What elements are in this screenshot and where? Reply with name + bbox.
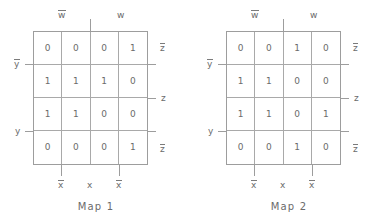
axis-label-right-z-bar-top: z bbox=[160, 43, 165, 53]
axis-label-bottom-x: x bbox=[280, 181, 285, 190]
map-cell: 1 bbox=[62, 65, 90, 98]
map-cell: 0 bbox=[312, 32, 340, 65]
karnaugh-map-figure: w w x x x y y z z z 0 0 0 1 1 1 1 0 1 1 … bbox=[0, 0, 385, 223]
axis-label-right-z-bar-top: z bbox=[353, 43, 358, 53]
map-cell: 0 bbox=[284, 65, 312, 98]
tick-right-z-middle bbox=[340, 98, 349, 99]
map-cell: 0 bbox=[91, 98, 119, 131]
map-cell: 0 bbox=[34, 32, 62, 65]
map-cell: 0 bbox=[62, 32, 90, 65]
tick-bottom-x-right bbox=[119, 165, 120, 176]
map-cell: 1 bbox=[119, 32, 147, 65]
karnaugh-grid: 0 0 1 0 1 1 0 0 1 1 0 1 0 0 1 0 bbox=[226, 31, 341, 165]
tick-right-z-upper bbox=[340, 64, 349, 65]
axis-label-right-z-bar-bottom: z bbox=[353, 144, 358, 154]
map-cell: 1 bbox=[34, 98, 62, 131]
axis-label-top-w-bar: w bbox=[251, 10, 258, 20]
map-cell: 1 bbox=[255, 65, 283, 98]
axis-label-top-w: w bbox=[117, 11, 124, 20]
map-cell: 0 bbox=[312, 131, 340, 164]
map-cell: 1 bbox=[62, 98, 90, 131]
axis-label-left-y: y bbox=[15, 127, 20, 136]
tick-right-z-middle bbox=[147, 98, 156, 99]
tick-bottom-x-left bbox=[254, 165, 255, 176]
map-cell: 0 bbox=[227, 131, 255, 164]
map-cell: 0 bbox=[62, 131, 90, 164]
axis-label-bottom-x-bar-left: x bbox=[251, 180, 256, 190]
tick-right-z-lower bbox=[147, 131, 156, 132]
map-cell: 1 bbox=[284, 32, 312, 65]
axis-label-right-z: z bbox=[161, 94, 166, 103]
axis-label-bottom-x-bar-right: x bbox=[309, 180, 314, 190]
axis-label-bottom-x: x bbox=[87, 181, 92, 190]
axis-label-top-w-bar: w bbox=[58, 10, 65, 20]
tick-bottom-x-right bbox=[312, 165, 313, 176]
map-cell: 0 bbox=[284, 98, 312, 131]
karnaugh-map-1: w w x x x y y z z z 0 0 0 1 1 1 1 0 1 1 … bbox=[0, 0, 192, 223]
axis-label-left-y: y bbox=[208, 127, 213, 136]
map-cell: 1 bbox=[119, 131, 147, 164]
tick-top-w-divider bbox=[90, 19, 91, 31]
map-cell: 0 bbox=[227, 32, 255, 65]
map-caption: Map 2 bbox=[193, 201, 385, 212]
map-caption: Map 1 bbox=[0, 201, 192, 212]
map-cell: 1 bbox=[284, 131, 312, 164]
tick-right-z-lower bbox=[340, 131, 349, 132]
map-cell: 1 bbox=[227, 65, 255, 98]
axis-label-right-z: z bbox=[354, 94, 359, 103]
tick-bottom-x-left bbox=[61, 165, 62, 176]
map-cell: 0 bbox=[34, 131, 62, 164]
map-cell: 1 bbox=[34, 65, 62, 98]
map-cell: 1 bbox=[227, 98, 255, 131]
axis-label-right-z-bar-bottom: z bbox=[160, 144, 165, 154]
axis-label-left-y-bar: y bbox=[14, 59, 19, 69]
tick-right-z-upper bbox=[147, 64, 156, 65]
map-cell: 0 bbox=[119, 98, 147, 131]
map-cell: 0 bbox=[91, 131, 119, 164]
axis-label-bottom-x-bar-left: x bbox=[58, 180, 63, 190]
map-cell: 1 bbox=[312, 98, 340, 131]
map-cell: 0 bbox=[312, 65, 340, 98]
axis-label-bottom-x-bar-right: x bbox=[116, 180, 121, 190]
map-cell: 0 bbox=[91, 32, 119, 65]
map-cell: 0 bbox=[255, 131, 283, 164]
karnaugh-map-2: w w x x x y y z z z 0 0 1 0 1 1 0 0 1 1 … bbox=[193, 0, 385, 223]
axis-label-left-y-bar: y bbox=[207, 59, 212, 69]
tick-top-w-divider bbox=[283, 19, 284, 31]
map-cell: 1 bbox=[91, 65, 119, 98]
map-cell: 0 bbox=[255, 32, 283, 65]
map-cell: 0 bbox=[119, 65, 147, 98]
map-cell: 1 bbox=[255, 98, 283, 131]
axis-label-top-w: w bbox=[310, 11, 317, 20]
karnaugh-grid: 0 0 0 1 1 1 1 0 1 1 0 0 0 0 0 1 bbox=[33, 31, 148, 165]
